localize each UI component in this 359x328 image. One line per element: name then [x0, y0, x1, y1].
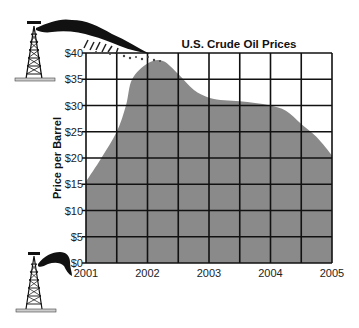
- x-tick-label: 2003: [197, 267, 221, 279]
- y-tick-label: $20: [65, 152, 83, 164]
- y-axis-label: Price per Barrel: [51, 117, 63, 199]
- y-tick-label: $15: [65, 178, 83, 190]
- y-tick-label: $40: [65, 47, 83, 59]
- y-tick-label: $5: [71, 231, 83, 243]
- x-tick-label: 2005: [320, 267, 344, 279]
- x-tick-label: 2004: [258, 267, 282, 279]
- y-tick-label: $30: [65, 100, 83, 112]
- x-tick-label: 2002: [135, 267, 159, 279]
- x-tick-label: 2001: [74, 267, 98, 279]
- y-tick-label: $25: [65, 126, 83, 138]
- chart-title: U.S. Crude Oil Prices: [181, 38, 296, 50]
- x-axis-ticks: 20012002200320042005: [74, 267, 344, 279]
- oil-derrick-small-icon: [16, 252, 72, 312]
- oil-price-chart: $0$5$10$15$20$25$30$35$40 20012002200320…: [0, 0, 359, 328]
- y-tick-label: $35: [65, 73, 83, 85]
- y-tick-label: $10: [65, 205, 83, 217]
- y-axis-ticks: $0$5$10$15$20$25$30$35$40: [65, 47, 83, 269]
